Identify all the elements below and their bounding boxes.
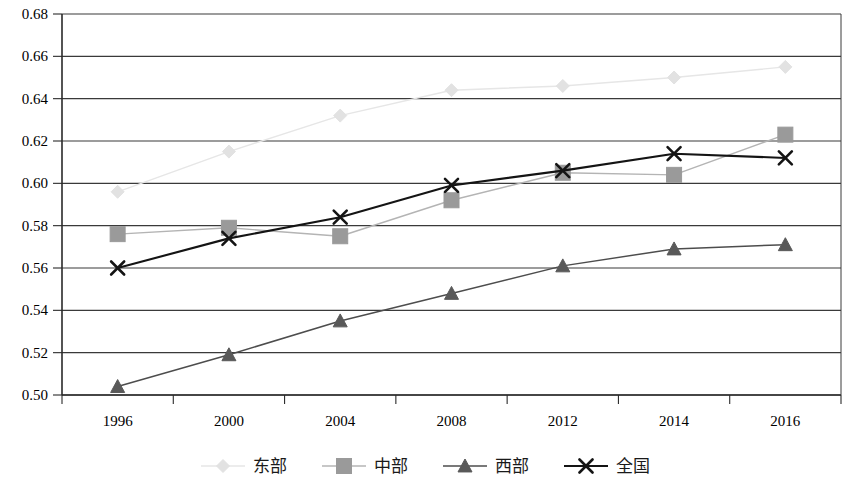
legend-marker-diamond-icon — [200, 458, 246, 474]
y-axis-tick-label: 0.54 — [22, 302, 49, 318]
data-point-marker — [667, 167, 682, 182]
legend-item-1[interactable]: 东部 — [200, 458, 287, 475]
series-line — [118, 245, 786, 387]
data-point-marker — [334, 109, 347, 122]
data-point-marker — [779, 60, 792, 73]
x-axis-tick-label: 2000 — [214, 413, 244, 429]
data-point-marker — [111, 185, 124, 198]
legend-marker-square-icon — [321, 458, 367, 474]
data-point-marker — [444, 193, 459, 208]
y-axis-tick-label: 0.62 — [22, 133, 48, 149]
x-axis-tick-label: 2016 — [770, 413, 801, 429]
legend-label: 西部 — [495, 458, 529, 475]
chart-legend: 东部中部西部全国 — [0, 446, 849, 486]
x-axis-tick-label: 2004 — [325, 413, 356, 429]
x-axis-tick-label: 2012 — [548, 413, 578, 429]
legend-marker-cross-icon — [563, 458, 609, 474]
legend-marker-triangle-icon — [442, 458, 488, 474]
series-1 — [111, 60, 792, 198]
data-point-marker — [555, 165, 570, 180]
series-4 — [111, 147, 792, 274]
chart-canvas: 0.680.660.640.620.600.580.560.540.520.50… — [0, 0, 849, 440]
y-axis-tick-label: 0.56 — [22, 260, 49, 276]
x-axis-tick-label: 1996 — [103, 413, 134, 429]
data-point-marker — [445, 84, 458, 97]
y-axis-tick-label: 0.58 — [22, 218, 48, 234]
x-axis-tick-label: 2014 — [659, 413, 690, 429]
legend-label: 中部 — [374, 458, 408, 475]
y-axis-tick-label: 0.64 — [22, 91, 49, 107]
legend-item-2[interactable]: 中部 — [321, 458, 408, 475]
data-point-marker — [668, 71, 681, 84]
data-point-marker — [222, 348, 236, 361]
data-point-marker — [333, 229, 348, 244]
legend-label: 东部 — [253, 458, 287, 475]
line-chart: 0.680.660.640.620.600.580.560.540.520.50… — [0, 0, 849, 486]
y-axis-tick-label: 0.66 — [22, 48, 49, 64]
data-point-marker — [222, 145, 235, 158]
y-axis-tick-label: 0.52 — [22, 345, 48, 361]
y-axis-tick-label: 0.60 — [22, 175, 48, 191]
data-point-marker — [778, 127, 793, 142]
legend-item-3[interactable]: 西部 — [442, 458, 529, 475]
data-point-marker — [556, 79, 569, 92]
legend-label: 全国 — [616, 458, 650, 475]
y-axis-tick-label: 0.50 — [22, 387, 48, 403]
data-point-marker — [110, 227, 125, 242]
plot-area: 0.680.660.640.620.600.580.560.540.520.50… — [0, 0, 849, 440]
legend-item-4[interactable]: 全国 — [563, 458, 650, 475]
y-axis-tick-label: 0.68 — [22, 6, 48, 22]
x-axis-tick-label: 2008 — [437, 413, 467, 429]
data-point-marker — [111, 380, 125, 393]
series-3 — [111, 238, 793, 393]
